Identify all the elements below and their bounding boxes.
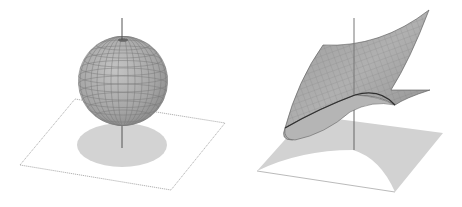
sphere bbox=[78, 36, 168, 126]
base-plane bbox=[257, 171, 395, 192]
sphere-panel: Sphere above plane with circular shadow bbox=[0, 0, 231, 207]
sphere-diagram bbox=[0, 0, 231, 207]
saddle-diagram bbox=[231, 0, 462, 207]
saddle-surface bbox=[284, 10, 430, 140]
saddle-panel: Saddle-like surface above plane with sha… bbox=[231, 0, 462, 207]
saddle-shadow bbox=[257, 115, 443, 192]
